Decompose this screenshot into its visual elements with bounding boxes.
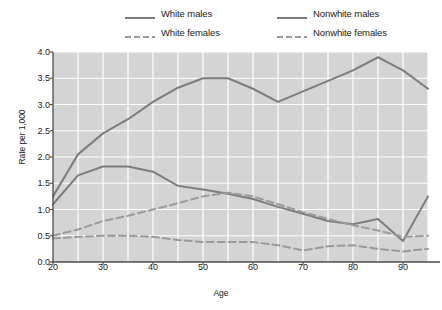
x-tick-label: 40 (138, 262, 168, 272)
x-tick-label: 20 (38, 262, 68, 272)
x-tick-label: 60 (238, 262, 268, 272)
x-tick-label: 80 (338, 262, 368, 272)
y-tick-label: 3.5 (20, 73, 50, 83)
x-tick-label: 90 (388, 262, 418, 272)
y-tick-label: 4.0 (20, 47, 50, 57)
y-axis-title: Rate per 1,000 (17, 102, 27, 172)
y-tick-label: 0.5 (20, 231, 50, 241)
x-tick-label: 70 (288, 262, 318, 272)
x-tick-label: 50 (188, 262, 218, 272)
x-axis-tick-labels: 2030405060708090 (0, 262, 442, 280)
y-tick-label: 1.5 (20, 178, 50, 188)
x-axis-title: Age (0, 288, 442, 298)
y-tick-label: 1.0 (20, 205, 50, 215)
chart-figure: White males Nonwhite males White females… (0, 0, 442, 310)
x-tick-label: 30 (88, 262, 118, 272)
